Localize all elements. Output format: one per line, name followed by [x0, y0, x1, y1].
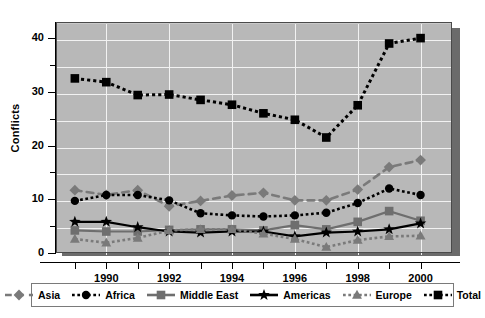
data-point — [321, 195, 332, 206]
data-point — [353, 218, 362, 227]
series-europe — [70, 224, 426, 251]
data-point — [165, 90, 174, 99]
x-tick — [106, 262, 107, 269]
y-tick-label: 20 — [14, 139, 44, 151]
y-tick-minor — [50, 65, 55, 66]
data-point — [385, 207, 394, 216]
data-point — [322, 133, 331, 142]
x-tick — [295, 262, 296, 269]
legend-label: Total — [457, 289, 481, 301]
data-point — [227, 190, 238, 201]
y-tick-label: 30 — [14, 85, 44, 97]
x-tick-minor — [75, 262, 76, 269]
data-point — [69, 185, 80, 196]
x-tick — [421, 262, 422, 269]
data-point — [353, 101, 362, 110]
legend-symbol-triangle-icon — [342, 287, 372, 303]
legend-label: Americas — [283, 289, 330, 301]
x-tick-minor — [263, 262, 264, 269]
series-total — [71, 34, 425, 142]
legend-item-europe[interactable]: Europe — [342, 287, 412, 303]
y-tick — [48, 253, 55, 254]
data-point — [259, 109, 268, 118]
data-point — [354, 199, 362, 207]
data-point — [416, 34, 425, 43]
legend-item-americas[interactable]: Americas — [249, 287, 330, 303]
x-tick-minor — [201, 262, 202, 269]
legend-label: Asia — [38, 289, 60, 301]
data-point — [71, 74, 80, 83]
data-point — [352, 184, 363, 195]
x-tick-minor — [389, 262, 390, 269]
data-point — [385, 39, 394, 48]
data-point — [228, 211, 236, 219]
series-americas — [69, 216, 426, 242]
legend-symbol-filled-square-icon — [423, 287, 453, 303]
y-tick-minor — [50, 172, 55, 173]
y-tick — [48, 199, 55, 200]
data-point — [322, 209, 330, 217]
y-tick-label: 40 — [14, 31, 44, 43]
legend-symbol-diamond-icon — [4, 287, 34, 303]
y-tick-minor — [50, 226, 55, 227]
legend-symbol-star-icon — [249, 287, 279, 303]
plot-3d-right-edge — [452, 28, 460, 256]
data-point — [416, 191, 424, 199]
data-point — [291, 211, 299, 219]
data-point — [133, 91, 142, 100]
legend-item-asia[interactable]: Asia — [4, 287, 60, 303]
legend-symbol-square-icon — [146, 287, 176, 303]
x-axis-line — [40, 262, 460, 263]
data-point — [289, 195, 300, 206]
legend-label: Africa — [105, 289, 135, 301]
x-tick-minor — [138, 262, 139, 269]
data-point — [100, 216, 112, 227]
y-tick — [48, 146, 55, 147]
data-point — [71, 197, 79, 205]
data-point — [71, 226, 80, 235]
legend-label: Middle East — [180, 289, 238, 301]
data-point — [228, 100, 237, 109]
x-tick — [232, 262, 233, 269]
data-point — [134, 191, 142, 199]
chart-container: Conflicts 010203040199019921994199619982… — [0, 0, 485, 318]
y-tick — [48, 38, 55, 39]
y-tick-label: 0 — [14, 246, 44, 258]
data-point — [69, 216, 81, 227]
y-tick-label: 10 — [14, 192, 44, 204]
data-point — [291, 115, 300, 124]
series-asia — [69, 155, 426, 212]
data-point — [165, 196, 173, 204]
x-tick — [169, 262, 170, 269]
data-point — [102, 227, 111, 236]
data-point — [352, 225, 364, 236]
legend-item-africa[interactable]: Africa — [71, 287, 135, 303]
x-tick — [358, 262, 359, 269]
data-point — [102, 78, 111, 87]
data-series-layer — [56, 22, 452, 253]
chart-legend: AsiaAfricaMiddle EastAmericasEuropeTotal — [31, 283, 454, 307]
y-tick — [48, 92, 55, 93]
legend-item-total[interactable]: Total — [423, 287, 481, 303]
x-tick-minor — [326, 262, 327, 269]
data-point — [102, 191, 110, 199]
data-point — [259, 212, 267, 220]
data-point — [196, 209, 204, 217]
legend-item-middle-east[interactable]: Middle East — [146, 287, 238, 303]
legend-label: Europe — [376, 289, 412, 301]
data-point — [195, 195, 206, 206]
series-africa — [71, 184, 425, 220]
y-tick-minor — [50, 119, 55, 120]
data-point — [196, 96, 205, 105]
data-point — [415, 155, 426, 166]
data-point — [291, 221, 300, 230]
data-point — [385, 184, 393, 192]
legend-symbol-circle-icon — [71, 287, 101, 303]
data-point — [258, 187, 269, 198]
data-point — [70, 234, 80, 243]
